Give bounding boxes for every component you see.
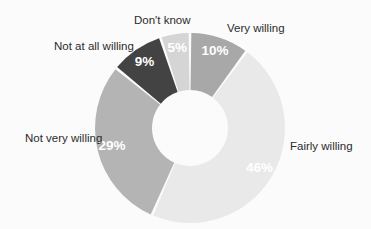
category-label-fairly-willing: Fairly willing <box>290 140 353 153</box>
slice-value-dont-know: 5% <box>168 40 188 55</box>
category-label-not-very-willing: Not very willing <box>25 132 102 145</box>
slice-value-fairly-willing: 46% <box>246 160 273 175</box>
slice-value-very-willing: 10% <box>201 43 228 58</box>
donut-chart-svg: 10% 46% 29% 9% 5% <box>0 0 371 229</box>
donut-chart: 10% 46% 29% 9% 5% Very willing Fairly wi… <box>0 0 371 229</box>
slice-value-not-very-willing: 29% <box>99 138 126 153</box>
category-label-not-at-all-willing: Not at all willing <box>54 40 134 53</box>
category-label-dont-know: Don't know <box>134 14 191 27</box>
category-label-very-willing: Very willing <box>227 22 285 35</box>
slice-value-not-at-all-willing: 9% <box>135 54 155 69</box>
donut-slices <box>95 33 285 223</box>
